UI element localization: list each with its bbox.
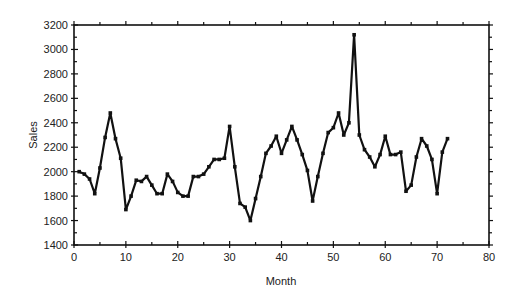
data-point: [243, 205, 247, 209]
data-point: [186, 194, 190, 198]
data-point: [119, 156, 123, 160]
data-point: [435, 192, 439, 196]
y-tick-label: 3000: [44, 43, 68, 55]
data-point: [109, 111, 113, 115]
data-point: [269, 144, 273, 148]
data-point: [83, 172, 87, 176]
data-point: [249, 219, 253, 223]
data-point: [160, 192, 164, 196]
y-tick-label: 1600: [44, 215, 68, 227]
data-point: [425, 144, 429, 148]
data-point: [217, 158, 221, 162]
y-tick-label: 1400: [44, 239, 68, 251]
data-point: [420, 137, 424, 141]
data-point: [192, 175, 196, 179]
sales-series-line: [79, 35, 447, 221]
data-point: [399, 150, 403, 154]
data-point: [77, 170, 81, 174]
data-point: [181, 194, 185, 198]
data-point: [358, 133, 362, 137]
data-point: [368, 155, 372, 159]
data-point: [134, 178, 138, 182]
x-tick-label: 20: [172, 251, 184, 263]
x-tick-label: 80: [483, 251, 495, 263]
x-tick-label: 30: [224, 251, 236, 263]
data-point: [347, 121, 351, 125]
y-tick-label: 2400: [44, 117, 68, 129]
data-point: [430, 158, 434, 162]
data-point: [124, 208, 128, 212]
data-point: [264, 152, 268, 156]
data-point: [321, 152, 325, 156]
x-axis-title: Month: [266, 275, 297, 287]
data-point: [129, 194, 133, 198]
data-point: [394, 153, 398, 157]
data-point: [166, 172, 170, 176]
data-point: [254, 197, 258, 201]
data-point: [300, 153, 304, 157]
y-tick-label: 2200: [44, 141, 68, 153]
y-tick-label: 3200: [44, 19, 68, 31]
data-point: [342, 133, 346, 137]
data-point: [337, 111, 341, 115]
data-point: [409, 183, 413, 187]
y-axis-tick-labels: 1400160018002000220024002600280030003200: [44, 19, 68, 251]
axis-ticks: [71, 21, 493, 248]
x-tick-label: 10: [120, 251, 132, 263]
data-point: [93, 192, 97, 196]
data-point: [103, 136, 107, 140]
data-point: [145, 175, 149, 179]
data-point: [155, 192, 159, 196]
data-point: [446, 137, 450, 141]
data-point: [389, 153, 393, 157]
data-point: [363, 148, 367, 152]
x-tick-label: 70: [431, 251, 443, 263]
data-point: [326, 131, 330, 135]
data-point: [197, 175, 201, 179]
data-point: [212, 158, 216, 162]
data-point: [352, 33, 356, 37]
data-point: [373, 165, 377, 169]
data-point: [280, 152, 284, 156]
data-point: [150, 183, 154, 187]
data-point: [223, 156, 227, 160]
data-point: [114, 137, 118, 141]
data-point: [311, 199, 315, 203]
data-point: [378, 153, 382, 157]
data-point: [207, 165, 211, 169]
data-point: [171, 180, 175, 184]
y-tick-label: 1800: [44, 190, 68, 202]
y-tick-label: 2600: [44, 92, 68, 104]
data-point: [202, 172, 206, 176]
data-point: [238, 202, 242, 206]
data-point: [98, 166, 102, 170]
line-chart: 01020304050607080 1400160018002000220024…: [0, 0, 522, 302]
data-point-markers: [77, 33, 449, 222]
data-point: [404, 189, 408, 193]
data-point: [306, 169, 310, 173]
y-tick-label: 2800: [44, 68, 68, 80]
data-point: [441, 150, 445, 154]
data-point: [332, 126, 336, 130]
data-point: [228, 125, 232, 129]
x-axis-tick-labels: 01020304050607080: [71, 251, 495, 263]
data-point: [140, 180, 144, 184]
data-point: [383, 134, 387, 138]
x-tick-label: 60: [379, 251, 391, 263]
x-tick-label: 0: [71, 251, 77, 263]
data-point: [285, 138, 289, 142]
data-point: [233, 165, 237, 169]
y-axis-title: Sales: [27, 121, 39, 149]
x-tick-label: 50: [327, 251, 339, 263]
data-point: [88, 177, 92, 181]
x-tick-label: 40: [275, 251, 287, 263]
data-point: [316, 175, 320, 179]
data-point: [259, 175, 263, 179]
data-point: [295, 138, 299, 142]
y-tick-label: 2000: [44, 166, 68, 178]
plot-frame: [74, 25, 489, 245]
data-point: [290, 125, 294, 129]
data-point: [415, 155, 419, 159]
data-point: [176, 191, 180, 195]
data-point: [275, 134, 279, 138]
